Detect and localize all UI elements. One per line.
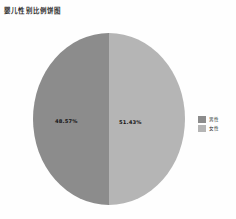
- legend-label-female: 女性: [209, 125, 219, 132]
- pie-chart-figure: 婴儿性别比例饼图 48.57% 51.43% 男性 女性: [0, 0, 236, 219]
- pie-plot-area: 48.57% 51.43%: [33, 33, 185, 205]
- page-title: 婴儿性别比例饼图: [4, 7, 62, 16]
- legend-swatch-female: [198, 125, 206, 132]
- legend-item-female[interactable]: 女性: [198, 124, 232, 132]
- chart-legend: 男性 女性: [198, 115, 232, 133]
- legend-swatch-male: [198, 116, 206, 123]
- legend-item-male[interactable]: 男性: [198, 115, 232, 123]
- pie-label-female: 48.57%: [55, 118, 78, 124]
- legend-label-male: 男性: [209, 116, 219, 123]
- pie-label-male: 51.43%: [119, 119, 142, 125]
